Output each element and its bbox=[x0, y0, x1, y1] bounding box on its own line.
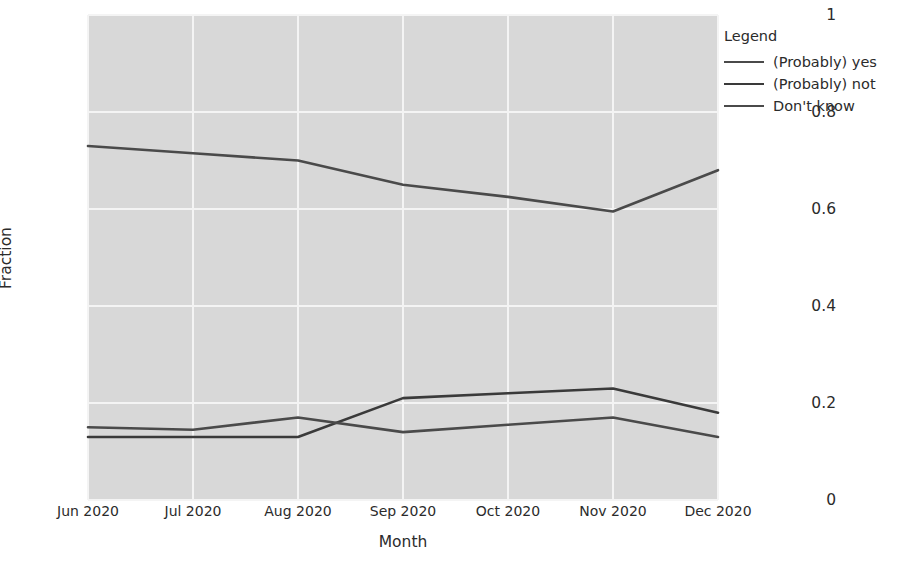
x-axis-tick-label: Oct 2020 bbox=[476, 503, 540, 519]
series-line bbox=[88, 146, 718, 211]
line-chart-figure: 00.20.40.60.81 Jun 2020Jul 2020Aug 2020S… bbox=[0, 0, 916, 573]
x-axis-tick-label: Dec 2020 bbox=[684, 503, 751, 519]
legend-item[interactable]: Don't know bbox=[724, 95, 909, 117]
legend-line-swatch bbox=[724, 61, 764, 63]
x-axis-tick-label: Sep 2020 bbox=[370, 503, 436, 519]
y-axis-tick-label: 0 bbox=[796, 491, 836, 509]
x-axis-tick-label: Nov 2020 bbox=[579, 503, 646, 519]
x-axis-tick-label: Jun 2020 bbox=[57, 503, 119, 519]
series-line bbox=[88, 418, 718, 437]
series-container bbox=[88, 15, 718, 500]
y-axis-label: Fraction bbox=[0, 227, 15, 289]
x-axis-tick-label: Jul 2020 bbox=[165, 503, 222, 519]
legend-title: Legend bbox=[724, 28, 909, 44]
x-axis-tick-label: Aug 2020 bbox=[264, 503, 331, 519]
legend-item-label: Don't know bbox=[773, 98, 855, 114]
legend-line-swatch bbox=[724, 83, 764, 85]
y-axis-tick-label: 1 bbox=[796, 6, 836, 24]
legend-items: (Probably) yes(Probably) notDon't know bbox=[724, 51, 909, 117]
legend-item[interactable]: (Probably) not bbox=[724, 73, 909, 95]
legend-item-label: (Probably) yes bbox=[773, 54, 877, 70]
legend: Legend (Probably) yes(Probably) notDon't… bbox=[724, 28, 909, 117]
plot-area bbox=[88, 15, 718, 500]
y-axis-tick-label: 0.2 bbox=[796, 394, 836, 412]
y-axis-tick-label: 0.4 bbox=[796, 297, 836, 315]
legend-item[interactable]: (Probably) yes bbox=[724, 51, 909, 73]
x-axis-label: Month bbox=[379, 533, 428, 551]
legend-item-label: (Probably) not bbox=[773, 76, 876, 92]
y-axis-tick-label: 0.6 bbox=[796, 200, 836, 218]
legend-line-swatch bbox=[724, 105, 764, 107]
